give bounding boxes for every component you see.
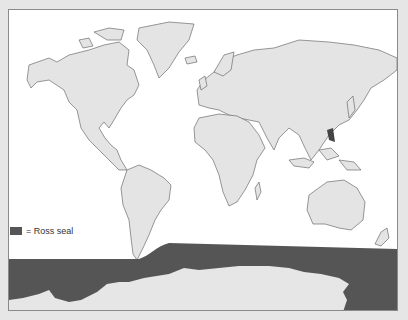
legend-swatch xyxy=(10,227,22,235)
map-frame xyxy=(8,9,398,311)
australia xyxy=(307,180,365,230)
legend-label: = Ross seal xyxy=(26,226,73,236)
north-america xyxy=(27,42,139,170)
legend: = Ross seal xyxy=(10,226,73,236)
greenland xyxy=(137,22,194,78)
africa xyxy=(194,114,265,206)
world-map xyxy=(9,10,398,311)
